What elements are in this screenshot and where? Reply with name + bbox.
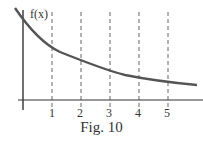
ylabel: f(x) bbox=[30, 7, 48, 22]
figure-caption: Fig. 10 bbox=[0, 119, 203, 136]
x-tick-labels: 1 2 3 4 5 bbox=[0, 106, 203, 120]
grid-lines bbox=[52, 12, 168, 108]
